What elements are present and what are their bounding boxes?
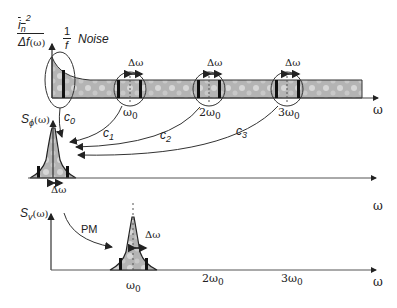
bottom-tick-3: 3ω0 (281, 273, 303, 287)
coef-c0: c0 (64, 111, 75, 126)
harmonic-3-label: 3ω0 (278, 107, 300, 121)
one-over-f-den: f (65, 40, 68, 51)
top-y-label: in2 (18, 14, 31, 34)
middle-y-label: Sϕ(ω) (21, 113, 50, 128)
top-noise-spectrum (45, 44, 378, 108)
top-y-label-den: Δf(ω) (18, 36, 45, 48)
bottom-tick-2: 2ω0 (202, 273, 224, 287)
bottom-bandwidth: Δω (145, 230, 160, 240)
harmonic-2-bandwidth: Δω (207, 58, 222, 68)
coef-c3: c3 (236, 125, 247, 140)
bottom-tick-1: ω0 (126, 280, 141, 294)
harmonic-1-label: ω0 (123, 107, 138, 121)
top-x-label: ω (373, 104, 383, 116)
middle-x-label: ω (373, 200, 383, 212)
arrow-c2 (76, 107, 200, 147)
arrow-c0 (59, 108, 62, 137)
coef-c1: c1 (103, 127, 114, 142)
harmonic-2-label: 2ω0 (199, 107, 221, 121)
middle-bandwidth: Δω (51, 185, 66, 195)
diagram-canvas (0, 0, 397, 308)
bottom-y-label: Sv(ω) (20, 207, 48, 222)
bottom-x-label: ω (373, 276, 383, 288)
phase-noise-spectrum (28, 121, 376, 183)
harmonic-1-bandwidth: Δω (128, 58, 143, 68)
noise-label: Noise (78, 33, 109, 45)
one-over-f-num: 1 (64, 26, 70, 37)
voltage-spectrum (51, 203, 376, 270)
harmonic-3-bandwidth: Δω (285, 58, 300, 68)
y-label-fraction-bar (17, 33, 44, 34)
coef-c2: c2 (160, 129, 171, 144)
pm-label: PM (81, 224, 98, 235)
arrow-c1 (70, 106, 122, 142)
